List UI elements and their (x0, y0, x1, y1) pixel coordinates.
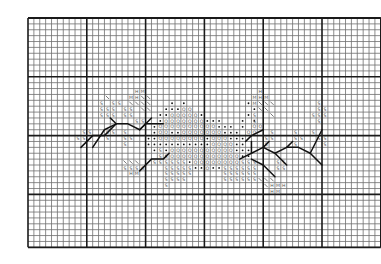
letter-symbol: Q (223, 142, 227, 147)
letter-symbol: S (182, 171, 185, 176)
letter-symbol: Q (229, 142, 233, 147)
letter-symbol: Q (170, 154, 174, 159)
dot-symbol (195, 167, 197, 169)
dot-symbol (218, 126, 220, 128)
dot-symbol (159, 120, 161, 122)
backstitch-path (140, 124, 146, 130)
dot-symbol (165, 149, 167, 151)
dot-symbol (165, 114, 167, 116)
letter-symbol: Q (223, 154, 227, 159)
letter-symbol: S (112, 101, 115, 106)
letter-symbol: S (276, 160, 279, 165)
letter-symbol: S (318, 113, 321, 118)
letter-symbol: Q (223, 136, 227, 141)
letter-symbol: S (294, 142, 297, 147)
backslash-symbol (141, 108, 144, 111)
letter-symbol: Q (229, 154, 233, 159)
backslash-symbol (123, 160, 126, 163)
dot-symbol (230, 126, 232, 128)
letter-symbol: S (253, 119, 256, 124)
letter-symbol: Q (217, 160, 221, 165)
letter-symbol: S (159, 154, 162, 159)
letter-symbol: S (224, 177, 227, 182)
letter-symbol: Q (217, 148, 221, 153)
letter-symbol: Q (217, 142, 221, 147)
letter-symbol: S (124, 166, 127, 171)
letter-symbol: S (241, 171, 244, 176)
dot-symbol (154, 126, 156, 128)
letter-symbol: Q (188, 136, 192, 141)
letter-symbol: S (124, 113, 127, 118)
backslash-symbol (141, 96, 144, 99)
letter-symbol: S (312, 113, 315, 118)
dot-symbol (218, 167, 220, 169)
letter-symbol: S (100, 107, 103, 112)
letter-symbol: S (323, 113, 326, 118)
letter-symbol: Q (247, 130, 251, 135)
dot-symbol (242, 144, 244, 146)
letter-symbol: Q (194, 124, 198, 129)
dot-symbol (189, 144, 191, 146)
letter-symbol: M (252, 101, 256, 106)
letter-symbol: Q (170, 124, 174, 129)
letter-symbol: Q (176, 119, 180, 124)
dot-symbol (171, 132, 173, 134)
letter-symbol: S (282, 166, 285, 171)
letter-symbol: S (176, 171, 179, 176)
letter-symbol: S (129, 166, 132, 171)
letter-symbol: Q (182, 113, 186, 118)
backslash-symbol (141, 102, 144, 105)
dot-symbol (154, 132, 156, 134)
letter-symbol: S (100, 101, 103, 106)
letter-symbol: Q (235, 154, 239, 159)
dot-symbol (201, 167, 203, 169)
letter-symbol: Q (182, 124, 186, 129)
letter-symbol: S (118, 101, 121, 106)
letter-symbol: S (165, 177, 168, 182)
letter-symbol: Q (164, 119, 168, 124)
backslash-symbol (147, 96, 150, 99)
backslash-symbol (147, 108, 150, 111)
dot-symbol (230, 132, 232, 134)
backslash-symbol (106, 96, 109, 99)
letter-symbol: S (253, 171, 256, 176)
letter-symbol: S (176, 166, 179, 171)
dot-symbol (242, 126, 244, 128)
letter-symbol: Q (206, 130, 210, 135)
letter-symbol: S (247, 166, 250, 171)
dot-symbol (177, 108, 179, 110)
letter-symbol: M (264, 95, 268, 100)
letter-symbol: Q (194, 154, 198, 159)
letter-symbol: Q (164, 136, 168, 141)
letter-symbol: S (176, 160, 179, 165)
letter-symbol: H (259, 89, 262, 94)
letter-symbol: Q (211, 148, 215, 153)
letter-symbol: S (112, 107, 115, 112)
dot-symbol (248, 114, 250, 116)
backstitch-path (110, 118, 116, 124)
backslash-symbol (135, 160, 138, 163)
letter-symbol: S (129, 113, 132, 118)
letter-symbol: S (100, 113, 103, 118)
dot-symbol (236, 138, 238, 140)
letter-symbol: S (159, 160, 162, 165)
dot-symbol (230, 138, 232, 140)
letter-symbol: S (106, 113, 109, 118)
letter-symbol: Q (176, 113, 180, 118)
letter-symbol: Q (158, 130, 162, 135)
dot-symbol (248, 102, 250, 104)
letter-symbol: S (124, 142, 127, 147)
letter-symbol: Q (188, 124, 192, 129)
letter-symbol: S (165, 160, 168, 165)
dot-symbol (236, 144, 238, 146)
letter-symbol: Q (158, 124, 162, 129)
letter-symbol: Q (211, 124, 215, 129)
letter-symbol: Q (194, 136, 198, 141)
letter-symbol: S (318, 119, 321, 124)
dot-symbol (165, 144, 167, 146)
letter-symbol: Q (176, 124, 180, 129)
backslash-symbol (270, 113, 273, 116)
letter-symbol: Q (200, 124, 204, 129)
letter-symbol: M (141, 89, 145, 94)
letter-symbol: Q (188, 154, 192, 159)
